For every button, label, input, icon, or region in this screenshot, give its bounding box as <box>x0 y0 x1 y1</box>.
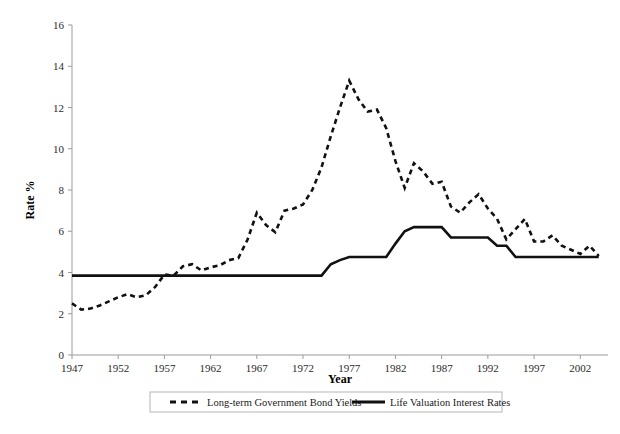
x-tick-label: 1992 <box>477 362 499 374</box>
y-axis-title: Rate % <box>23 181 37 220</box>
y-axis-ticks: 0246810121416 <box>53 19 72 361</box>
x-tick-label: 1972 <box>292 362 314 374</box>
x-tick-label: 1957 <box>153 362 176 374</box>
x-tick-label: 1967 <box>246 362 269 374</box>
y-tick-label: 4 <box>59 267 65 279</box>
x-tick-label: 1997 <box>523 362 546 374</box>
chart-series-layer <box>72 81 599 310</box>
y-tick-label: 6 <box>59 225 65 237</box>
x-tick-label: 1962 <box>200 362 222 374</box>
legend-label-valuation-rates: Life Valuation Interest Rates <box>390 397 510 408</box>
x-tick-label: 1982 <box>384 362 406 374</box>
chart-figure: 0246810121416 19471952195719621967197219… <box>0 0 620 434</box>
series-line-valuation-rates <box>72 227 599 275</box>
x-tick-label: 1952 <box>107 362 129 374</box>
x-axis-title: Year <box>328 372 353 386</box>
x-tick-label: 1947 <box>61 362 84 374</box>
y-tick-label: 8 <box>59 184 65 196</box>
x-axis-ticks: 1947195219571962196719721977198219871992… <box>61 355 591 374</box>
y-tick-label: 0 <box>59 349 65 361</box>
x-tick-label: 2002 <box>569 362 591 374</box>
legend-label-bond-yields: Long-term Government Bond Yields <box>207 397 361 408</box>
x-tick-label: 1987 <box>431 362 454 374</box>
y-tick-label: 2 <box>59 308 65 320</box>
y-tick-label: 10 <box>53 143 65 155</box>
y-tick-label: 12 <box>53 102 64 114</box>
chart-axes <box>72 25 608 355</box>
y-tick-label: 16 <box>53 19 65 31</box>
chart-legend: Long-term Government Bond Yields Life Va… <box>150 392 510 412</box>
rate-line-chart: 0246810121416 19471952195719621967197219… <box>0 0 620 434</box>
y-tick-label: 14 <box>53 60 65 72</box>
